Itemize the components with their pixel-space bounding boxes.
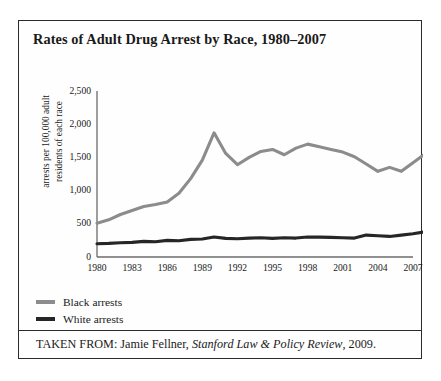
series-group	[97, 133, 423, 244]
x-tick-label: 1983	[115, 262, 149, 273]
x-tick-label: 1995	[256, 262, 290, 273]
figure-title: Rates of Adult Drug Arrest by Race, 1980…	[33, 31, 326, 48]
series-line-white-arrests	[97, 232, 423, 244]
chart-legend: Black arrests White arrests	[36, 293, 123, 327]
x-tick-label: 2007	[396, 262, 430, 273]
y-axis-title-line: residents of each race	[52, 67, 65, 217]
y-tick-label: 500	[45, 217, 91, 228]
y-axis-title: arrests per 100,000 adultresidents of ea…	[40, 67, 65, 217]
legend-item-white-arrests: White arrests	[36, 310, 123, 327]
legend-swatch-black-arrests	[36, 300, 55, 304]
x-tick-label: 2004	[361, 262, 395, 273]
x-tick-label: 1980	[80, 262, 114, 273]
legend-label-black-arrests: Black arrests	[63, 296, 122, 308]
chart-plot-region: 05001,0001,5002,0002,500 198019831986198…	[19, 57, 423, 283]
legend-item-black-arrests: Black arrests	[36, 293, 123, 310]
figure-frame: Rates of Adult Drug Arrest by Race, 1980…	[18, 20, 422, 359]
x-tick-label: 2001	[326, 262, 360, 273]
source-prefix: TAKEN FROM: Jamie Fellner,	[36, 337, 192, 351]
x-tick-label: 1989	[185, 262, 219, 273]
y-axis-title-line: arrests per 100,000 adult	[40, 67, 53, 217]
source-divider	[19, 330, 421, 331]
source-attribution: TAKEN FROM: Jamie Fellner, Stanford Law …	[36, 337, 376, 352]
axes-group	[97, 91, 413, 257]
x-tick-label: 1986	[150, 262, 184, 273]
legend-label-white-arrests: White arrests	[63, 313, 123, 325]
legend-swatch-white-arrests	[36, 317, 55, 321]
source-publication: Stanford Law & Policy Review	[192, 337, 343, 351]
x-tick-label: 1992	[220, 262, 254, 273]
source-suffix: , 2009.	[342, 337, 376, 351]
y-tick-label: 0	[45, 251, 91, 262]
x-tick-label: 1998	[291, 262, 325, 273]
series-line-black-arrests	[97, 133, 423, 223]
